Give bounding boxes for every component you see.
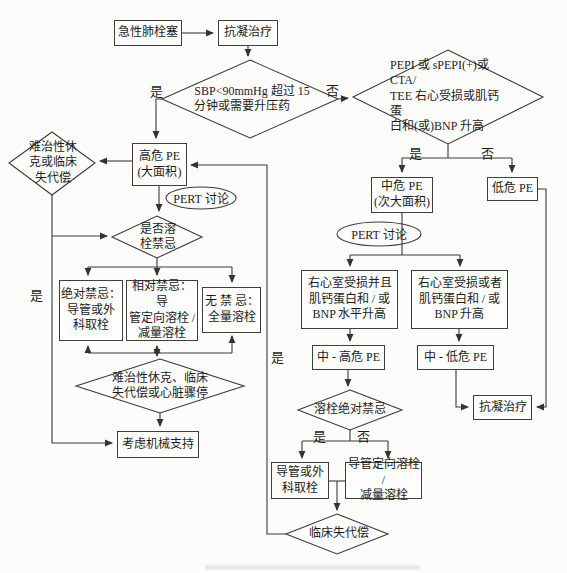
node-catheter-directed-or-reduced-lysis: 导管定向溶栓 / 减量溶栓 [345,462,422,499]
edge-label-yes-decompensation-loop: 是 [271,347,284,366]
node-pert-discussion-1-label: PERT 讨论 [173,189,228,207]
node-pepi-decision-label: PEPI 或 sPEPI(+)或 CTA/ TEE 右心受损或肌钙蛋 白和(或)… [390,58,508,135]
edge-label-yes-pepi: 是 [409,143,422,162]
node-intermediate-risk-pe: 中危 PE (次大面积) [371,177,433,213]
flowchart-canvas: 急性肺栓塞 抗凝治疗 高危 PE (大面积) 绝对禁忌： 导管或外 科取栓 相对… [0,0,567,573]
node-no-contraindication: 无 禁 忌： 全量溶栓 [202,287,261,333]
node-catheter-or-surgical-embolectomy: 导管或外 科取栓 [271,462,329,499]
node-anticoagulation-top: 抗凝治疗 [218,20,278,46]
node-sbp-decision-label: SBP<90mmHg 超过 15 分钟或需要升压药 [194,84,309,115]
node-acute-pe: 急性肺栓塞 [114,20,182,46]
node-low-risk-pe: 低危 PE [487,177,538,201]
node-rv-injury-or-biomarkers: 右心室受损或者 肌钙蛋白和 / 或 BNP 升高 [411,270,508,329]
node-shock-arrest-label: 难治性休克、临床 失代偿或心脏骤停 [112,371,208,402]
node-clinical-decompensation-label: 临床失代偿 [309,526,369,541]
node-relative-contraindication: 相对禁忌：导 管定向溶栓 / 减量溶栓 [126,280,198,341]
node-absolute-contraindication: 绝对禁忌： 导管或外 科取栓 [59,280,123,341]
edge-label-yes-sbp: 是 [150,81,163,100]
node-high-risk-pe: 高危 PE (大面积) [132,143,187,186]
edge-label-yes-absolute-lysis: 是 [313,426,326,445]
node-intermediate-low-risk-pe: 中 - 低危 PE [417,345,494,370]
node-rv-injury-and-biomarkers: 右心室受损并且 肌钙蛋白和 / 或 BNP 水平升高 [301,270,398,329]
node-mechanical-support: 考虑机械支持 [117,431,199,458]
node-pert-discussion-2-label: PERT 讨论 [351,225,406,243]
edge-label-no-pepi: 否 [481,143,494,162]
edge-label-yes-refractory: 是 [30,285,43,304]
node-lysis-contraindication-label: 是否溶 栓禁忌 [140,222,176,253]
node-anticoagulation-bottom: 抗凝治疗 [473,395,532,420]
node-absolute-lysis-contra-label: 溶栓绝对禁忌 [314,402,386,417]
scan-caption-artifact [205,565,420,570]
node-refractory-shock-label: 难治性休 克或临床 失代偿 [29,140,77,186]
edge-label-no-sbp: 否 [326,80,339,99]
node-intermediate-high-risk-pe: 中 - 高危 PE [312,345,385,370]
edge-label-no-absolute-lysis: 否 [357,426,370,445]
